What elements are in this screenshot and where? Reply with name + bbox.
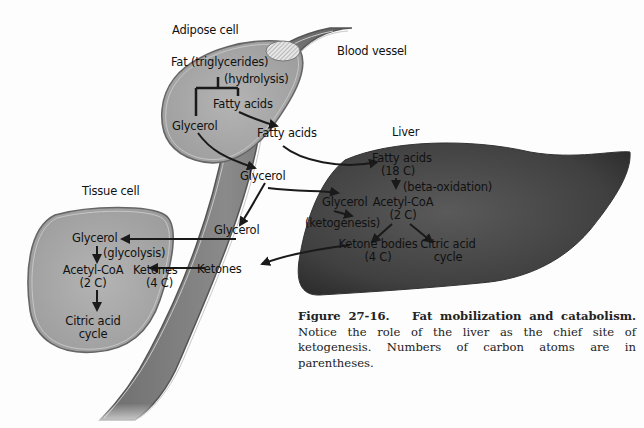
tissue-cycle: cycle [62,328,124,341]
blood-vessel-label: Blood vessel [337,45,407,58]
vessel-glycerol-upper: Glycerol [240,170,285,183]
liver-label: Liver [392,126,419,139]
adipose-fatty-acids: Fatty acids [213,98,273,111]
liver-citric-acid-cycle: Citric acid cycle [420,238,476,264]
adipose-glycerol: Glycerol [172,120,217,133]
vessel-glycerol-lower: Glycerol [214,224,259,237]
adipose-hydrolysis: (hydrolysis) [224,73,289,86]
liver-acetyl-coa: Acetyl-CoA (2 C) [372,196,434,222]
tissue-ketones-carbons: (4 C) [133,277,173,290]
caption-title: Fat mobilization and catabolism. [412,309,636,323]
tissue-acetyl-coa: Acetyl-CoA (2 C) [60,264,126,290]
tissue-ketones: Ketones (4 C) [133,264,173,290]
liver-acetyl-coa-carbons: (2 C) [372,209,434,222]
liver-fatty-acids: Fatty acids (18 C) [372,152,424,178]
tissue-citric-acid-cycle: Citric acid cycle [62,315,124,341]
tissue-cell-label: Tissue cell [82,185,139,198]
liver-cycle: cycle [420,251,476,264]
figure-caption: Figure 27-16. Fat mobilization and catab… [298,309,636,371]
tissue-glycerol: Glycerol [72,232,117,245]
liver-glycerol: Glycerol [322,196,367,209]
tissue-acetyl-coa-carbons: (2 C) [60,277,126,290]
vessel-ketones: Ketones [197,263,242,276]
tissue-glycolysis: (glycolysis) [103,247,165,260]
liver-ketone-bodies: Ketone bodies (4 C) [338,238,418,264]
liver-beta-oxidation: (beta-oxidation) [403,181,492,194]
adipose-fat-triglycerides: Fat (triglycerides) [171,56,268,69]
liver-fatty-acids-carbons: (18 C) [372,165,424,178]
adipose-cell-label: Adipose cell [172,24,239,37]
liver-ketogenesis: (ketogenesis) [305,217,380,230]
caption-number: Figure 27-16. [298,309,390,323]
caption-body: Notice the role of the liver as the chie… [298,325,636,370]
vessel-fatty-acids: Fatty acids [257,127,317,140]
liver-ketone-bodies-carbons: (4 C) [338,251,418,264]
